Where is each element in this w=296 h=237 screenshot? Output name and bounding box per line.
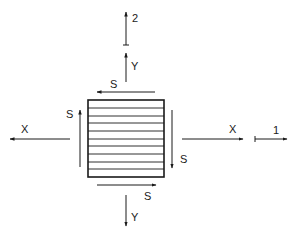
- shear-right-label: S: [180, 153, 187, 165]
- normal-y-top-label: Y: [131, 60, 139, 72]
- shear-left-label: S: [66, 108, 73, 120]
- axis-2-label: 2: [132, 12, 138, 24]
- shear-bottom-label: S: [144, 190, 151, 202]
- fiber-hatch-lines: [88, 108, 164, 169]
- lamina-element: [88, 100, 164, 177]
- axis-1-arrow: [255, 136, 287, 142]
- normal-y-bottom-label: Y: [131, 211, 139, 223]
- axis-2-arrow: [123, 12, 129, 45]
- stress-element-diagram: 2 Y S S Y X S S X 1: [0, 0, 296, 237]
- axis-1-label: 1: [273, 124, 279, 136]
- shear-top-label: S: [110, 78, 117, 90]
- normal-x-right-label: X: [229, 123, 237, 135]
- normal-x-left-label: X: [21, 123, 29, 135]
